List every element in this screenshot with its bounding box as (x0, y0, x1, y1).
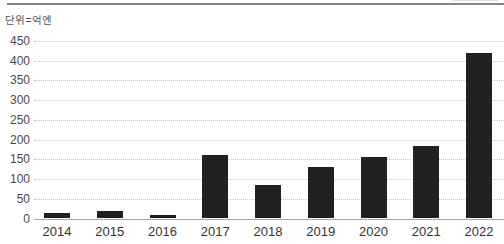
gridline-300 (34, 100, 504, 101)
gridline-350 (34, 80, 504, 81)
bar-2018 (255, 185, 281, 219)
bar-2019 (308, 167, 334, 218)
plot-area: 0501001502002503003504004502014201520162… (0, 0, 504, 244)
bar-chart-figure: 단위=억엔 0501001502002503003504004502014201… (0, 0, 504, 244)
bar-2021 (413, 146, 439, 219)
y-tick-label-100: 100 (0, 172, 30, 186)
bar-2022 (466, 53, 492, 219)
bar-2020 (361, 157, 387, 218)
gridline-400 (34, 61, 504, 62)
x-tick-label-2015: 2015 (84, 224, 136, 239)
x-tick-label-2017: 2017 (189, 224, 241, 239)
y-tick-label-450: 450 (0, 34, 30, 48)
x-tick-label-2022: 2022 (453, 224, 504, 239)
y-tick-label-200: 200 (0, 133, 30, 147)
y-tick-label-50: 50 (0, 192, 30, 206)
x-tick-label-2016: 2016 (137, 224, 189, 239)
x-tick-label-2018: 2018 (242, 224, 294, 239)
gridline-250 (34, 120, 504, 121)
y-tick-label-400: 400 (0, 54, 30, 68)
x-tick-label-2019: 2019 (295, 224, 347, 239)
y-tick-label-150: 150 (0, 152, 30, 166)
y-tick-label-300: 300 (0, 93, 30, 107)
bar-2017 (202, 155, 228, 218)
y-tick-label-350: 350 (0, 73, 30, 87)
y-tick-label-250: 250 (0, 113, 30, 127)
y-tick-label-0: 0 (0, 212, 30, 226)
gridline-450 (34, 41, 504, 42)
x-axis-line (34, 219, 504, 220)
x-tick-label-2020: 2020 (348, 224, 400, 239)
gridline-200 (34, 140, 504, 141)
x-tick-label-2021: 2021 (400, 224, 452, 239)
bar-2015 (97, 211, 123, 219)
x-tick-label-2014: 2014 (31, 224, 83, 239)
